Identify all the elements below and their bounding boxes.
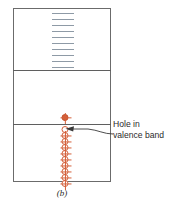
energy-level-dash [52,55,74,56]
callout-label-line-1: Hole in [113,119,179,130]
electron-marker [62,180,69,187]
discrete-energy-level-stack [52,13,74,67]
energy-level-dash [52,49,74,50]
ion-core-marker [62,114,69,121]
energy-level-dash [52,19,74,20]
figure-caption: (b) [13,188,111,198]
energy-level-dash [52,13,74,14]
valence-band-carrier-column [57,112,73,182]
energy-level-dash [52,61,74,62]
energy-level-dash [52,67,74,68]
band-diagram-figure: Hole in valence band (b) [0,0,180,212]
energy-level-dash [52,43,74,44]
energy-level-dash [52,37,74,38]
conduction-band-edge-divider [13,70,111,71]
callout-label-line-2: valence band [113,130,179,141]
energy-level-dash [52,25,74,26]
energy-level-dash [52,31,74,32]
callout-label: Hole in valence band [113,119,179,140]
